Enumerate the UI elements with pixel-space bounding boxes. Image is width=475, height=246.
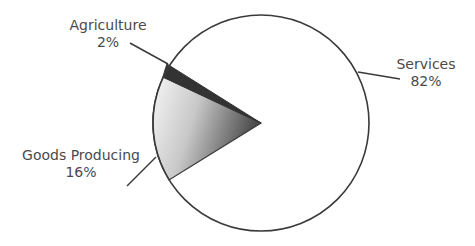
label-goods-producing: Goods Producing 16% — [16, 147, 146, 181]
label-agriculture-pct: 2% — [68, 34, 148, 51]
label-goods-producing-pct: 16% — [16, 164, 146, 181]
label-agriculture-name: Agriculture — [68, 17, 148, 34]
label-goods-producing-name: Goods Producing — [16, 147, 146, 164]
label-agriculture: Agriculture 2% — [68, 17, 148, 51]
label-services-pct: 82% — [390, 73, 462, 90]
label-services: Services 82% — [390, 56, 462, 90]
label-services-name: Services — [390, 56, 462, 73]
